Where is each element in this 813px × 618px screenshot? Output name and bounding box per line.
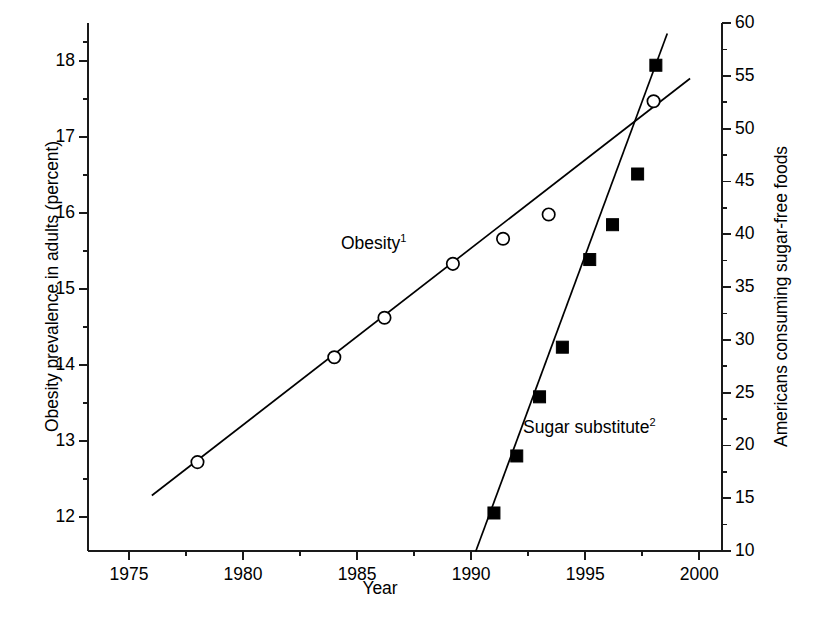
y-tick-label-right: 45 [735, 170, 781, 191]
y-tick-label-right: 50 [735, 118, 781, 139]
data-point-marker [542, 208, 554, 220]
data-point-marker [497, 233, 509, 245]
chart-figure: Obesity prevalence in adults (percent) A… [0, 0, 813, 618]
data-point-marker [378, 312, 390, 324]
data-point-marker [191, 456, 203, 468]
y-tick-label-left: 12 [29, 506, 75, 527]
y-tick-label-left: 16 [29, 202, 75, 223]
series-label-sugar-substitute: Sugar substitute2 [523, 416, 656, 438]
trendline [476, 34, 668, 552]
y-tick-label-left: 15 [29, 278, 75, 299]
x-tick-label: 2000 [664, 564, 734, 585]
y-tick-label-right: 15 [735, 487, 781, 508]
y-tick-label-left: 14 [29, 354, 75, 375]
y-tick-label-right: 35 [735, 276, 781, 297]
x-tick-label: 1975 [94, 564, 164, 585]
x-tick-label: 1990 [436, 564, 506, 585]
data-point-marker [328, 351, 340, 363]
series-label-obesity: Obesity1 [341, 232, 406, 254]
y-tick-label-right: 55 [735, 65, 781, 86]
data-point-marker [488, 507, 500, 519]
data-point-marker [632, 168, 644, 180]
axes-group [79, 23, 731, 560]
data-point-marker [556, 341, 568, 353]
data-point-marker [511, 450, 523, 462]
data-point-marker [534, 391, 546, 403]
x-tick-label: 1985 [322, 564, 392, 585]
y-tick-label-right: 20 [735, 434, 781, 455]
series-group [152, 34, 690, 552]
y-tick-label-right: 30 [735, 329, 781, 350]
y-tick-label-left: 17 [29, 126, 75, 147]
data-point-marker [607, 219, 619, 231]
y-tick-label-right: 25 [735, 382, 781, 403]
y-tick-label-right: 60 [735, 12, 781, 33]
y-tick-label-right: 10 [735, 540, 781, 561]
series-label-sugar-footnote: 2 [649, 416, 655, 428]
plot-area [0, 0, 813, 618]
series-sugar-substitute [476, 34, 668, 552]
x-tick-label: 1980 [208, 564, 278, 585]
data-point-marker [650, 59, 662, 71]
x-tick-label: 1995 [550, 564, 620, 585]
y-tick-label-left: 13 [29, 430, 75, 451]
data-point-marker [447, 258, 459, 270]
data-point-marker [584, 254, 596, 266]
series-label-obesity-footnote: 1 [400, 232, 406, 244]
series-label-obesity-text: Obesity [341, 233, 400, 253]
y-tick-label-right: 40 [735, 223, 781, 244]
series-label-sugar-text: Sugar substitute [523, 417, 649, 437]
data-point-marker [647, 95, 659, 107]
y-tick-label-left: 18 [29, 50, 75, 71]
